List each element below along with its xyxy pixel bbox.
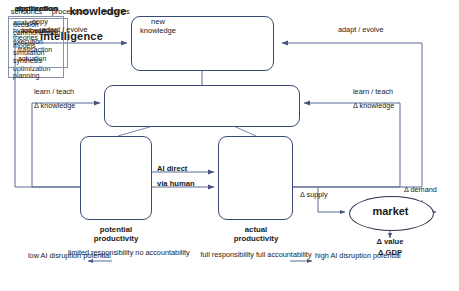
actual-productivity-line1: actual (216, 225, 296, 234)
diagram-canvas: sensorics processors motorics intelligen… (0, 0, 459, 291)
node-knowledge[interactable] (104, 85, 300, 127)
edge-label-delta-supply: Δ supply (300, 191, 328, 200)
edge-label-delta-knowledge-left: Δ knowledge (34, 102, 75, 111)
annotation-actual-productivity: actual productivity (216, 225, 296, 243)
node-abstraction[interactable] (80, 136, 152, 220)
actual-productivity-line2: productivity (216, 234, 296, 243)
list-item: transaction (13, 46, 67, 54)
edge-label-delta-demand: Δ demand (404, 186, 437, 195)
list-item: actuation (13, 55, 67, 63)
annotation-actual-responsibility: full responsibility full accountability (200, 250, 312, 259)
edge-label-ai-direct: AI direct (157, 165, 187, 174)
knowledge-new-label: new knowledge (128, 18, 188, 36)
edge-label-learn-teach-right: learn / teach (353, 88, 393, 97)
list-item: execution (13, 38, 67, 46)
list-item: planning (13, 72, 63, 80)
knowledge-new-line2: knowledge (128, 27, 188, 36)
potential-productivity-line1: potential (78, 225, 154, 234)
annotation-delta-value: Δ value (360, 238, 420, 247)
node-application[interactable] (218, 136, 293, 220)
edge-label-adapt-evolve-right: adapt / evolve (338, 26, 383, 35)
annotation-low-ai-disruption: low AI disruption potential (28, 251, 84, 260)
annotation-high-ai-disruption: high AI disruption potential (315, 251, 371, 260)
edge-label-via-human: via human (157, 180, 195, 189)
application-title: application (0, 4, 75, 13)
edge-label-adapt-evolve-left: adapt / evolve (42, 26, 87, 35)
edge-label-delta-knowledge-right: Δ knowledge (353, 102, 394, 111)
potential-productivity-line2: productivity (78, 234, 154, 243)
annotation-potential-productivity: potential productivity (78, 225, 154, 243)
market-title: market (349, 205, 432, 218)
edge-label-learn-teach-left: learn / teach (34, 88, 74, 97)
